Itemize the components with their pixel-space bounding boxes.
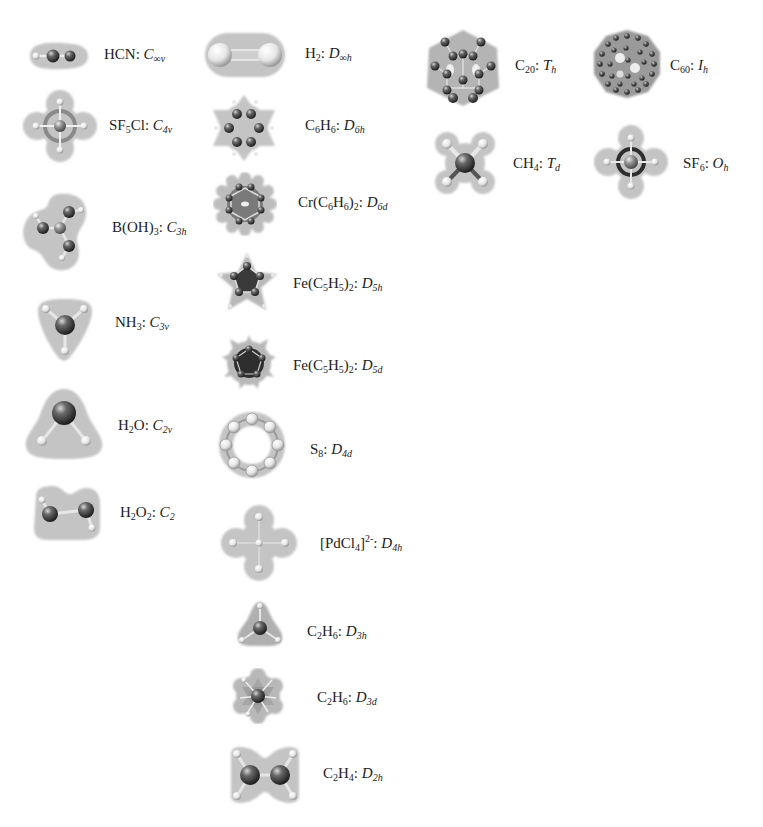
- c20-label: C20: Th: [515, 58, 556, 73]
- sf5cl-label: SF5Cl: C4v: [109, 118, 172, 133]
- benzene-molecule-icon: [207, 92, 281, 164]
- hcn-molecule-icon: [22, 38, 92, 74]
- hydrogen-peroxide-molecule-icon: [28, 484, 106, 542]
- nh3-label: NH3: C3v: [115, 315, 169, 330]
- boric-acid-molecule-icon: [18, 188, 98, 274]
- s8-ring-molecule-icon: [214, 405, 290, 485]
- tetrachloropalladate-molecule-icon: [218, 502, 300, 584]
- boh3-label: B(OH)3: C3h: [112, 220, 187, 235]
- ch4-label: CH4: Td: [513, 156, 560, 171]
- c60-label: C60: Ih: [670, 58, 708, 73]
- ethane-staggered-molecule-icon: [230, 668, 286, 724]
- sf5cl-molecule-icon: [22, 88, 98, 164]
- ethylene-molecule-icon: [225, 744, 305, 806]
- h2-label: H2: D∞h: [305, 46, 352, 61]
- ethane-eclipsed-molecule-icon: [234, 600, 286, 648]
- crc6h6-label: Cr(C6H6)2: D6d: [298, 195, 388, 210]
- c20-fullerene-molecule-icon: [423, 28, 503, 108]
- c60-fullerene-molecule-icon: [590, 28, 664, 100]
- s8-label: S8: D4d: [310, 442, 352, 457]
- fec5h5-staggered-label: Fe(C5H5)2: D5d: [293, 358, 383, 373]
- water-molecule-icon: [22, 385, 106, 461]
- ferrocene-staggered-molecule-icon: [220, 333, 278, 393]
- hcn-label: HCN: C∞v: [104, 47, 165, 62]
- c6h6-label: C6H6: D6h: [305, 118, 365, 133]
- c2h6-staggered-label: C2H6: D3d: [317, 690, 377, 705]
- fec5h5-eclipsed-label: Fe(C5H5)2: D5h: [293, 276, 383, 291]
- methane-molecule-icon: [433, 130, 497, 196]
- dibenzenechromium-molecule-icon: [213, 172, 277, 236]
- hydrogen-molecule-icon: [203, 31, 287, 79]
- ferrocene-eclipsed-molecule-icon: [214, 250, 280, 314]
- h2o2-label: H2O2: C2: [120, 505, 175, 520]
- sf6-label: SF6: Oh: [683, 156, 728, 171]
- ammonia-molecule-icon: [30, 295, 100, 365]
- c2h6-eclipsed-label: C2H6: D3h: [307, 624, 367, 639]
- c2h4-label: C2H4: D2h: [323, 766, 383, 781]
- pdcl4-label: [PdCl4]2-: D4h: [320, 536, 402, 551]
- h2o-label: H2O: C2v: [118, 418, 172, 433]
- sf6-molecule-icon: [593, 122, 669, 202]
